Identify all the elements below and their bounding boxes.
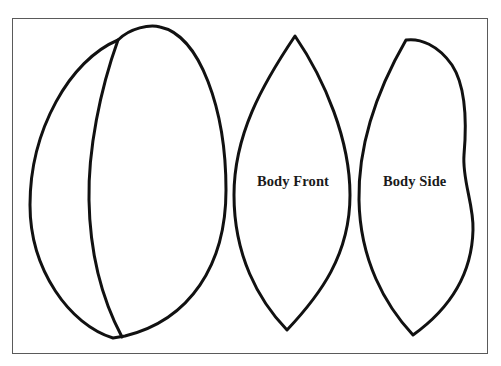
egg-piece-outline [30, 26, 226, 338]
pattern-sheet: Body Front Body Side [0, 0, 501, 366]
egg-piece-seam [89, 40, 122, 337]
body-side-label: Body Side [383, 173, 446, 190]
body-front-label: Body Front [257, 173, 329, 190]
